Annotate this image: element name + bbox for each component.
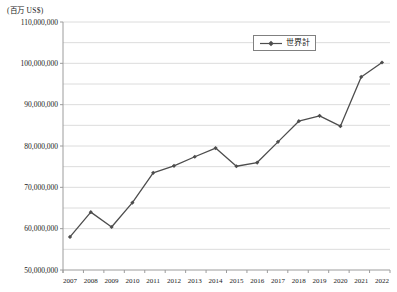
x-tick-label: 2014 [209, 277, 224, 285]
plot-area: 50,000,00060,000,00070,000,00080,000,000… [0, 0, 397, 292]
x-tick-label: 2013 [188, 277, 203, 285]
data-point-marker [338, 124, 342, 128]
x-tick-label: 2020 [333, 277, 348, 285]
x-tick-label: 2016 [250, 277, 265, 285]
legend-label: 世界計 [286, 39, 310, 47]
x-tick-label: 2007 [63, 277, 78, 285]
x-tick-label: 2011 [146, 277, 160, 285]
x-tick-label: 2012 [167, 277, 182, 285]
x-tick-label: 2010 [125, 277, 140, 285]
legend: 世界計 [253, 35, 316, 51]
x-tick-label: 2022 [375, 277, 390, 285]
x-tick-label: 2017 [271, 277, 286, 285]
y-tick-label: 80,000,000 [24, 142, 58, 151]
y-tick-label: 90,000,000 [24, 100, 58, 109]
data-point-marker [193, 155, 197, 159]
y-tick-label: 70,000,000 [24, 183, 58, 192]
data-point-marker [318, 114, 322, 118]
y-tick-label: 100,000,000 [21, 59, 59, 68]
x-tick-label: 2015 [229, 277, 244, 285]
x-tick-label: 2019 [313, 277, 328, 285]
x-tick-label: 2008 [84, 277, 99, 285]
data-point-marker [172, 164, 176, 168]
chart-container: (百万 US$) 50,000,00060,000,00070,000,0008… [0, 0, 397, 292]
y-tick-label: 50,000,000 [24, 266, 58, 275]
y-tick-label: 110,000,000 [21, 18, 58, 27]
legend-line-marker-icon [259, 39, 283, 48]
series-line-世界計 [70, 63, 382, 237]
x-tick-label: 2018 [292, 277, 307, 285]
x-tick-label: 2009 [105, 277, 120, 285]
y-tick-label: 60,000,000 [24, 224, 58, 233]
x-tick-label: 2021 [354, 277, 369, 285]
